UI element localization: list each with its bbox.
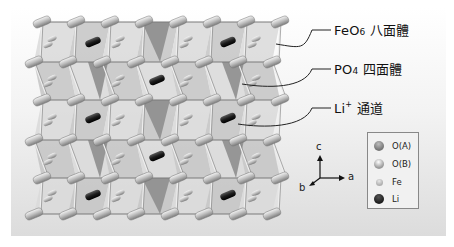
callout-po4-label: PO4 四面體 — [334, 59, 402, 78]
legend-label-o-b: O(B) — [392, 159, 411, 169]
legend-item-fe: Fe — [374, 175, 402, 189]
feo6-text: 八面體 — [370, 23, 410, 38]
callout-feo6-label: FeO6 八面體 — [334, 20, 410, 39]
legend-item-o-b: O(B) — [374, 157, 411, 171]
po4-text: 四面體 — [363, 62, 403, 77]
legend-item-li: Li — [374, 192, 399, 206]
legend-label-li: Li — [392, 194, 399, 204]
legend: O(A) O(B) Fe Li — [367, 132, 419, 209]
legend-label-fe: Fe — [392, 177, 402, 187]
po4-formula: PO — [334, 62, 352, 77]
axis-indicator — [309, 155, 345, 186]
legend-item-o-a: O(A) — [374, 139, 411, 153]
po4-subscript: 4 — [352, 66, 358, 76]
li-atom-icon — [374, 194, 384, 204]
li-text: 通道 — [357, 101, 383, 116]
li-superscript: + — [345, 100, 352, 109]
c-axis-label: c — [316, 141, 322, 152]
o-b-atom-icon — [374, 159, 384, 169]
feo6-subscript: 6 — [360, 27, 366, 37]
b-axis-label: b — [299, 182, 305, 193]
callout-li-label: Li+ 通道 — [334, 98, 383, 117]
crystal-structure-figure: FeO6 八面體 PO4 四面體 Li+ 通道 c a b O(A) O(B) … — [0, 0, 454, 247]
a-axis-arrow-icon — [339, 175, 345, 181]
legend-label-o-a: O(A) — [392, 141, 411, 151]
callout-line-feo6 — [276, 30, 331, 47]
o-a-atom-icon — [374, 141, 384, 151]
a-axis-label: a — [348, 171, 354, 182]
li-formula: Li — [334, 101, 345, 116]
c-axis-arrow-icon — [317, 155, 323, 161]
feo6-formula: FeO — [334, 23, 360, 38]
oxygen-atom — [24, 207, 44, 221]
fe-atom-icon — [376, 179, 383, 186]
